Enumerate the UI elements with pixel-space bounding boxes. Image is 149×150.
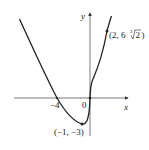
min-point-marker <box>81 123 84 126</box>
function-curve <box>20 16 112 124</box>
svg-text:2: 2 <box>136 30 141 40</box>
svg-text:): ) <box>142 30 145 40</box>
root-neg4-marker <box>56 97 58 99</box>
x-axis-label: x <box>123 102 128 112</box>
tick-label-neg4: −4 <box>50 100 60 110</box>
y-axis-label: y <box>80 11 85 21</box>
svg-text:3: 3 <box>130 29 133 34</box>
function-graph: y x 0 −4 (2, 6 3 2 ) (−1, −3) <box>0 0 149 150</box>
min-point-label: (−1, −3) <box>54 127 84 137</box>
origin-marker <box>89 97 92 100</box>
svg-text:(2, 6: (2, 6 <box>109 30 126 40</box>
max-point-label: (2, 6 3 2 ) <box>109 29 145 40</box>
origin-label: 0 <box>82 100 87 110</box>
